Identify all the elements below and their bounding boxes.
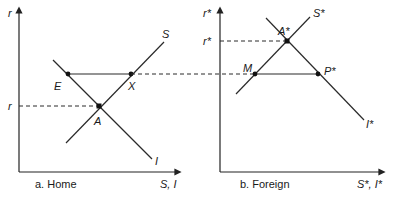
label-A-star: A* bbox=[277, 25, 290, 37]
home-panel: r S, I a. Home r S I E X A bbox=[8, 7, 178, 190]
foreign-investment-label: I* bbox=[366, 118, 374, 130]
home-x-axis-label: S, I bbox=[160, 178, 177, 190]
home-saving-label: S bbox=[162, 28, 170, 40]
foreign-panel: r* S*, I* b. Foreign r* S* I* M P* A* bbox=[203, 7, 383, 190]
label-X: X bbox=[127, 80, 136, 92]
point-M bbox=[253, 72, 258, 77]
foreign-y-axis-label: r* bbox=[203, 7, 212, 19]
home-caption: a. Home bbox=[35, 178, 77, 190]
home-rate-tick-label: r bbox=[8, 100, 13, 112]
foreign-saving-label: S* bbox=[313, 7, 325, 19]
label-P-star: P* bbox=[324, 65, 336, 77]
point-E bbox=[66, 72, 71, 77]
home-y-axis-label: r bbox=[8, 7, 13, 19]
two-country-saving-investment-diagram: r S, I a. Home r S I E X A r* S*, I* b. … bbox=[0, 0, 393, 198]
home-investment-label: I bbox=[155, 155, 158, 167]
foreign-caption: b. Foreign bbox=[240, 178, 290, 190]
foreign-x-axis-label: S*, I* bbox=[357, 178, 383, 190]
point-P-star bbox=[316, 72, 321, 77]
label-E: E bbox=[54, 80, 62, 92]
foreign-saving-curve bbox=[236, 17, 310, 94]
label-A: A bbox=[93, 115, 101, 127]
label-M: M bbox=[243, 62, 253, 74]
point-A bbox=[97, 104, 102, 109]
point-A-star bbox=[285, 39, 290, 44]
home-saving-curve bbox=[66, 42, 164, 143]
foreign-rate-tick-label: r* bbox=[203, 35, 212, 47]
